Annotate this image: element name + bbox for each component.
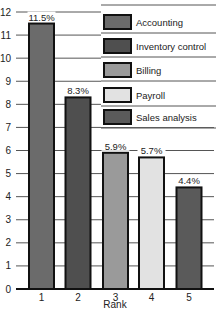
legend-swatch <box>104 63 131 77</box>
bar-5 <box>177 187 202 289</box>
y-tick-label: 8 <box>5 99 11 110</box>
legend: AccountingInventory controlBillingPayrol… <box>101 5 216 128</box>
data-label: 4.4% <box>178 175 200 186</box>
x-tick-label: 5 <box>186 292 192 303</box>
legend-swatch <box>104 15 131 29</box>
y-tick-label: 2 <box>5 237 11 248</box>
data-label: 5.9% <box>105 141 127 152</box>
x-tick-label: 1 <box>39 292 45 303</box>
y-tick-label: 1 <box>5 260 11 271</box>
y-tick-label: 11 <box>1 30 12 41</box>
x-tick-label: 2 <box>75 292 81 303</box>
legend-label: Billing <box>136 65 161 76</box>
y-tick-label: 10 <box>0 53 11 64</box>
y-axis-ticks: 0123456789101112 <box>0 7 11 295</box>
bar-1 <box>29 24 54 289</box>
legend-label: Accounting <box>136 17 183 28</box>
bar-3 <box>103 153 128 289</box>
y-tick-label: 4 <box>5 191 11 202</box>
legend-label: Inventory control <box>136 41 206 52</box>
bar-chart: 0123456789101112 11.5%8.3%5.9%5.7%4.4% 1… <box>0 0 220 315</box>
legend-swatch <box>104 39 131 53</box>
legend-label: Sales analysis <box>136 112 197 123</box>
legend-swatch <box>104 110 131 124</box>
x-axis-label: Rank <box>103 299 127 310</box>
bar-4 <box>139 157 164 289</box>
y-tick-label: 3 <box>5 214 11 225</box>
data-label: 11.5% <box>28 12 55 23</box>
legend-label: Payroll <box>136 90 165 101</box>
data-label: 8.3% <box>67 85 89 96</box>
bar-2 <box>66 97 91 289</box>
y-tick-label: 0 <box>5 284 11 295</box>
legend-swatch <box>104 88 131 102</box>
y-tick-label: 9 <box>5 76 11 87</box>
x-tick-label: 4 <box>149 292 155 303</box>
y-tick-label: 5 <box>5 168 11 179</box>
y-tick-label: 12 <box>0 7 11 18</box>
data-label: 5.7% <box>141 145 163 156</box>
y-tick-label: 6 <box>5 145 11 156</box>
y-tick-label: 7 <box>5 122 11 133</box>
